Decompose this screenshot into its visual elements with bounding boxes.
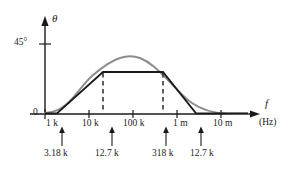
asymptote-approximation [45, 72, 248, 113]
y-tick-label-45: 45° [14, 38, 27, 48]
x-tick-label-10k: 10 k [82, 119, 99, 129]
x-axis-unit-label: (Hz) [259, 118, 276, 128]
x-axis-label: f [265, 98, 268, 109]
annotation-label-12-7k: 12.7 k [95, 149, 119, 159]
y-tick-label-zero: 0 [33, 108, 38, 118]
plot-canvas [0, 0, 293, 169]
x-tick-label-1m: 1 m [173, 119, 188, 129]
annotation-label-12-7m: 12.7 k [190, 149, 214, 159]
arrow-up-12-7k-left [109, 127, 115, 147]
x-tick-label-10m: 10 m [213, 119, 232, 129]
arrow-up-12-7m-right [198, 127, 204, 147]
x-tick-label-1k: 1 k [46, 119, 58, 129]
phase-response-figure: θ 45° 0 f (Hz) 1 k 10 k 100 k 1 m 10 m 3… [0, 0, 293, 169]
annotation-arrows [59, 127, 204, 147]
arrow-up-318k [163, 127, 169, 147]
annotation-label-3-18k: 3.18 k [44, 149, 68, 159]
x-tick-label-100k: 100 k [123, 119, 144, 129]
dashed-guides [103, 73, 163, 113]
actual-phase-curve [45, 57, 248, 114]
y-axis [39, 16, 51, 114]
arrow-up-3-18k [59, 127, 65, 147]
y-axis-label: θ [52, 13, 57, 24]
annotation-label-318k: 318 k [152, 149, 173, 159]
